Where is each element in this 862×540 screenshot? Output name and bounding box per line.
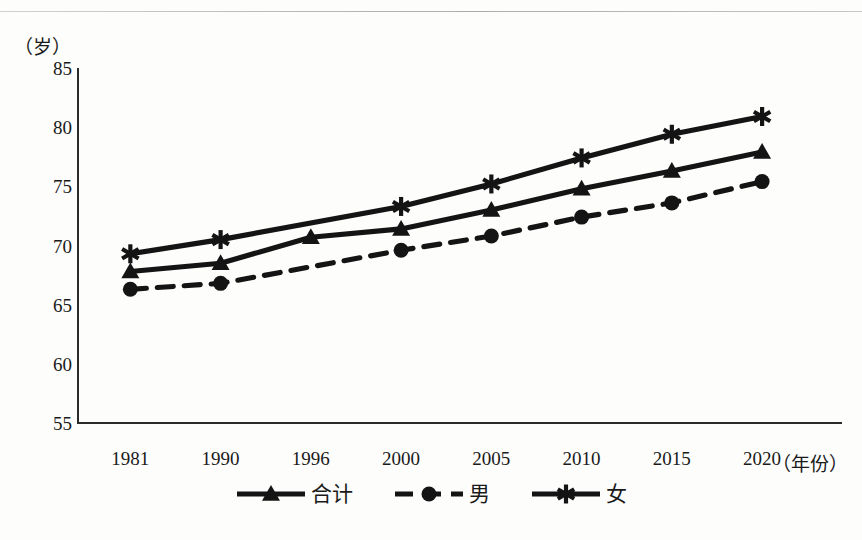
legend-label: 女 xyxy=(606,484,627,505)
circle-marker xyxy=(574,210,589,225)
legend-label: 合计 xyxy=(311,484,353,505)
circle-marker xyxy=(422,487,437,502)
legend-item[interactable]: 男 xyxy=(393,482,490,506)
legend-swatch xyxy=(530,482,602,506)
legend-item[interactable]: 女 xyxy=(530,482,627,506)
series-合计 xyxy=(121,143,771,278)
legend-item[interactable]: 合计 xyxy=(235,482,353,506)
legend-swatch xyxy=(393,482,465,506)
life-expectancy-line-chart: （岁） 55606570758085 198119901996200020052… xyxy=(0,12,862,522)
page-footer-ghost xyxy=(0,518,862,540)
legend-swatch xyxy=(235,482,307,506)
circle-marker xyxy=(484,229,499,244)
circle-marker xyxy=(394,243,409,258)
circle-marker xyxy=(755,174,770,189)
scanned-page: （岁） 55606570758085 198119901996200020052… xyxy=(0,0,862,540)
chart-legend: 合计男女 xyxy=(0,482,862,506)
series-女 xyxy=(122,107,770,263)
legend-label: 男 xyxy=(469,484,490,505)
circle-marker xyxy=(664,195,679,210)
circle-marker xyxy=(213,276,228,291)
plot-area xyxy=(0,12,862,522)
circle-marker xyxy=(123,282,138,297)
